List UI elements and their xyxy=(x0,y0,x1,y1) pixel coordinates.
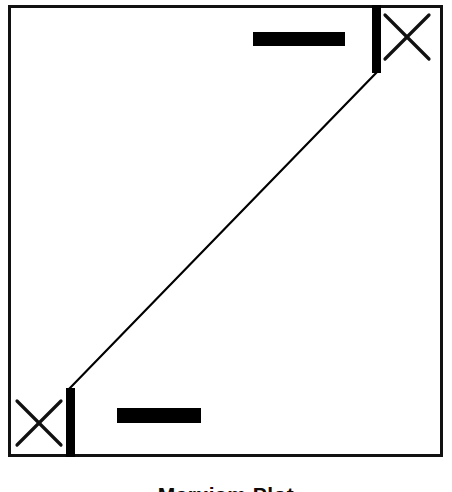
figure-caption: Marxism Plot xyxy=(0,466,452,492)
bar-vertical-right xyxy=(372,5,381,73)
figure-canvas: Marxism Plot xyxy=(0,0,452,492)
bar-horizontal-top xyxy=(253,32,345,46)
figure-caption-text: Marxism Plot xyxy=(0,482,452,492)
bar-vertical-left xyxy=(66,388,75,457)
bar-horizontal-bottom xyxy=(117,408,201,423)
